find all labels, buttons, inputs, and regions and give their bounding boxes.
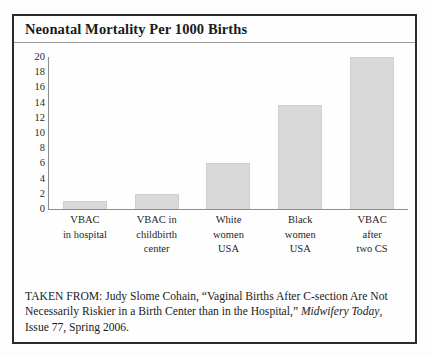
page-title: Neonatal Mortality Per 1000 Births <box>25 21 247 38</box>
y-axis-tick-20: 20 <box>35 52 46 62</box>
bar-slot <box>193 57 265 209</box>
x-axis-label-line: two CS <box>337 242 407 257</box>
y-axis-tick-18: 18 <box>35 67 46 77</box>
x-axis-label-line: VBAC <box>50 213 120 228</box>
bar-3 <box>206 163 250 209</box>
x-axis-label-line: childbirth <box>122 228 192 243</box>
y-axis-tick-labels: 20181614121086420 <box>19 57 45 207</box>
y-axis-tick-16: 16 <box>35 82 46 92</box>
y-axis-tick-6: 6 <box>40 158 45 168</box>
x-axis-label-line: Black <box>265 213 335 228</box>
bar-4 <box>278 105 322 209</box>
x-axis-label-line: White <box>194 213 264 228</box>
y-axis-tick-14: 14 <box>35 98 46 108</box>
x-axis-label-2: VBAC inchildbirthcenter <box>121 213 193 257</box>
bar-slot <box>121 57 193 209</box>
x-axis-label-3: WhitewomenUSA <box>193 213 265 257</box>
x-axis-category-labels: VBACin hospitalVBAC inchildbirthcenterWh… <box>49 213 408 257</box>
x-axis-label-4: BlackwomenUSA <box>264 213 336 257</box>
caption-journal-name: Midwifery Today <box>301 305 379 318</box>
x-axis-label-line: VBAC in <box>122 213 192 228</box>
x-axis-label-line: in hospital <box>50 228 120 243</box>
x-axis-label-line: women <box>265 228 335 243</box>
bar-1 <box>63 201 107 209</box>
x-axis-label-line: after <box>337 228 407 243</box>
bar-slot <box>336 57 408 209</box>
x-axis-line <box>48 209 408 210</box>
bar-2 <box>135 194 179 209</box>
title-block: Neonatal Mortality Per 1000 Births <box>14 16 415 43</box>
figure-panel: Neonatal Mortality Per 1000 Births 20181… <box>12 14 417 344</box>
y-axis-tick-2: 2 <box>40 189 45 199</box>
y-axis-tick-10: 10 <box>35 128 46 138</box>
y-axis-tick-0: 0 <box>40 204 45 214</box>
y-axis-tick-4: 4 <box>40 174 45 184</box>
bar-slot <box>49 57 121 209</box>
x-axis-label-line: center <box>122 242 192 257</box>
bar-series <box>49 57 408 209</box>
x-axis-label-line: women <box>194 228 264 243</box>
caption-line-1: TAKEN FROM: Judy Slome Cohain, “Vaginal … <box>25 290 348 303</box>
bar-slot <box>264 57 336 209</box>
chart-plot-area: 20181614121086420 VBACin hospitalVBAC in… <box>14 43 415 278</box>
y-axis-tick-12: 12 <box>35 113 46 123</box>
x-axis-label-line: VBAC <box>337 213 407 228</box>
x-axis-label-1: VBACin hospital <box>49 213 121 257</box>
source-caption: TAKEN FROM: Judy Slome Cohain, “Vaginal … <box>14 283 415 343</box>
x-axis-label-line: USA <box>265 242 335 257</box>
bar-5 <box>350 57 394 209</box>
y-axis-tick-8: 8 <box>40 143 45 153</box>
x-axis-label-line: USA <box>194 242 264 257</box>
x-axis-label-5: VBACaftertwo CS <box>336 213 408 257</box>
